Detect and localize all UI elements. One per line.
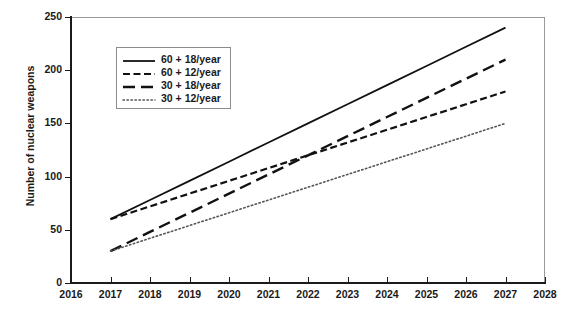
legend-line-icon (122, 92, 156, 104)
series-layer (0, 0, 579, 318)
legend-label: 60 + 12/year (161, 66, 221, 78)
legend: 60 + 18/year60 + 12/year30 + 18/year30 +… (116, 47, 231, 109)
legend-item: 30 + 12/year (122, 91, 224, 104)
legend-item: 60 + 18/year (122, 52, 224, 65)
legend-label: 30 + 18/year (161, 79, 221, 91)
legend-label: 30 + 12/year (161, 92, 221, 104)
legend-line-icon (122, 53, 156, 65)
legend-line-icon (122, 79, 156, 91)
series-line (111, 123, 506, 251)
legend-item: 60 + 12/year (122, 65, 224, 78)
legend-item: 30 + 18/year (122, 78, 224, 91)
nuclear-weapons-projection-chart: Number of nuclear weapons 05010015020025… (0, 0, 579, 318)
legend-label: 60 + 18/year (161, 53, 221, 65)
legend-line-icon (122, 66, 156, 78)
